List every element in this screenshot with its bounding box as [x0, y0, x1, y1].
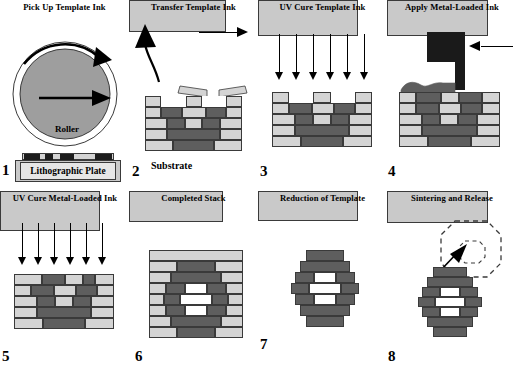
brick: [226, 305, 243, 316]
brick: [43, 318, 85, 329]
brick: [441, 92, 459, 103]
feed-arrow-head: [469, 41, 480, 51]
brick: [220, 118, 242, 129]
panel-8: Sintering and Release 8: [387, 191, 517, 382]
brick: [301, 136, 343, 147]
brick: [416, 92, 441, 103]
brick: [226, 96, 242, 107]
brick: [207, 283, 226, 294]
brick: [399, 92, 416, 103]
brick: [207, 305, 226, 316]
panel-1-title: Pick Up Template Ink: [0, 2, 129, 12]
brick: [440, 114, 458, 125]
roller-label: Roller: [8, 124, 126, 134]
panel-2-title: Transfer Template Ink: [129, 2, 258, 12]
brick: [433, 327, 467, 337]
brick: [399, 114, 422, 125]
brick: [349, 125, 372, 136]
panel-3: UV Cure Template Ink 3: [258, 0, 387, 191]
ink-block: [60, 154, 74, 160]
brick: [460, 307, 478, 317]
brick: [459, 92, 482, 103]
brick: [202, 118, 220, 129]
brick: [167, 129, 220, 140]
brick: [221, 316, 243, 327]
brick: [215, 261, 243, 272]
brick: [477, 114, 500, 125]
brick: [399, 136, 428, 147]
ink-block: [95, 154, 112, 160]
brick: [482, 92, 500, 103]
brick: [226, 283, 243, 294]
feed-arrow-shaft: [481, 46, 513, 47]
brick: [91, 296, 114, 307]
brick: [331, 114, 349, 125]
brick: [91, 307, 114, 318]
gap: [161, 96, 186, 107]
brick: [272, 92, 289, 103]
curved-lift-arrow: [133, 22, 193, 84]
brick: [300, 305, 350, 316]
void: [309, 283, 341, 294]
panel-2: Transfer Template Ink Substrate 2: [129, 0, 258, 191]
panel-8-title: Sintering and Release: [387, 193, 517, 203]
panel-3-title: UV Cure Template Ink: [258, 2, 387, 12]
brick: [149, 294, 164, 305]
panel-5: UV Cure Metal-Loaded Ink 5: [0, 191, 129, 382]
brick: [171, 272, 221, 283]
brick: [65, 274, 83, 285]
brick: [14, 285, 31, 296]
panel-6-title: Completed Stack: [129, 193, 258, 203]
brick: [97, 285, 114, 296]
brick: [149, 272, 171, 283]
panel-6: Completed Stack 6: [129, 191, 258, 382]
panel-5-title: UV Cure Metal-Loaded Ink: [0, 193, 132, 203]
brick: [399, 125, 422, 136]
brick: [291, 283, 309, 294]
brick: [422, 287, 440, 297]
panel-7-number: 7: [260, 337, 268, 352]
panel-7: Reduction of Template 7: [258, 191, 387, 382]
void: [180, 294, 212, 305]
brick: [73, 296, 91, 307]
brick: [149, 305, 166, 316]
brick: [460, 287, 478, 297]
brick: [214, 140, 242, 151]
brick: [439, 103, 461, 114]
brick: [306, 250, 344, 261]
brick: [149, 261, 177, 272]
brick: [422, 125, 477, 136]
brick: [14, 296, 37, 307]
brick: [206, 107, 226, 118]
brick: [173, 140, 214, 151]
void: [185, 283, 207, 294]
brick: [167, 118, 185, 129]
brick: [37, 296, 55, 307]
brick: [149, 316, 171, 327]
brick: [171, 316, 221, 327]
brick: [272, 136, 301, 147]
brick: [422, 114, 440, 125]
brick: [313, 114, 331, 125]
brick: [427, 277, 473, 287]
brick: [399, 103, 416, 114]
brick: [295, 114, 313, 125]
panel-1: Pick Up Template Ink Roller Lithographic…: [0, 0, 129, 191]
brick: [334, 103, 355, 114]
brick: [31, 285, 54, 296]
brick: [145, 107, 161, 118]
brick: [14, 274, 42, 285]
substrate-label: Substrate: [151, 160, 192, 171]
brick: [312, 103, 334, 114]
brick: [220, 129, 242, 140]
panel-8-number: 8: [388, 349, 396, 364]
brick: [482, 103, 500, 114]
void: [440, 287, 460, 297]
brick: [145, 96, 161, 107]
brick: [355, 103, 372, 114]
advance-arrow-head: [237, 27, 248, 37]
brick: [433, 267, 467, 277]
brick: [272, 103, 289, 114]
void: [435, 297, 465, 307]
brick: [355, 92, 372, 103]
